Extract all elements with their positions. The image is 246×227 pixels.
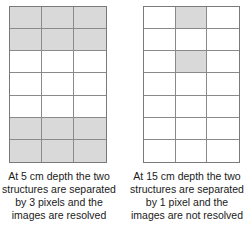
- pixel-cell-shaded: [10, 118, 42, 140]
- pixel-cell: [176, 96, 208, 118]
- pixel-cell: [207, 51, 239, 73]
- pixel-cell: [207, 73, 239, 95]
- caption-5cm: At 5 cm depth the two structures are sep…: [0, 170, 118, 222]
- pixel-cell: [42, 51, 74, 73]
- pixel-grid-5cm: [9, 6, 107, 163]
- pixel-cell-shaded: [176, 7, 208, 29]
- pixel-cell: [42, 73, 74, 95]
- pixel-cell: [207, 140, 239, 162]
- pixel-cell: [207, 118, 239, 140]
- pixel-cell-shaded: [42, 7, 74, 29]
- pixel-cell-shaded: [176, 51, 208, 73]
- pixel-cell-shaded: [42, 29, 74, 51]
- pixel-cell: [10, 96, 42, 118]
- pixel-cell: [144, 96, 176, 118]
- pixel-cell: [144, 7, 176, 29]
- pixel-cell: [144, 51, 176, 73]
- pixel-cell: [10, 51, 42, 73]
- pixel-cell-shaded: [10, 29, 42, 51]
- pixel-cell: [42, 96, 74, 118]
- pixel-cell: [207, 7, 239, 29]
- pixel-grid-15cm: [143, 6, 240, 163]
- pixel-cell: [207, 96, 239, 118]
- caption-15cm: At 15 cm depth the two structures are se…: [128, 170, 246, 222]
- pixel-cell: [74, 73, 106, 95]
- pixel-cell-shaded: [42, 140, 74, 162]
- pixel-cell: [176, 118, 208, 140]
- pixel-cell: [144, 73, 176, 95]
- pixel-cell-shaded: [74, 140, 106, 162]
- pixel-cell-shaded: [42, 118, 74, 140]
- pixel-cell: [176, 73, 208, 95]
- pixel-cell: [144, 140, 176, 162]
- pixel-cell: [144, 29, 176, 51]
- pixel-cell: [144, 118, 176, 140]
- pixel-cell: [176, 29, 208, 51]
- pixel-cell-shaded: [10, 7, 42, 29]
- pixel-cell-shaded: [74, 7, 106, 29]
- pixel-cell: [74, 51, 106, 73]
- pixel-cell-shaded: [74, 29, 106, 51]
- pixel-cell-shaded: [74, 118, 106, 140]
- pixel-cell: [207, 29, 239, 51]
- pixel-cell-shaded: [10, 140, 42, 162]
- pixel-cell: [176, 140, 208, 162]
- pixel-cell: [10, 73, 42, 95]
- pixel-cell: [74, 96, 106, 118]
